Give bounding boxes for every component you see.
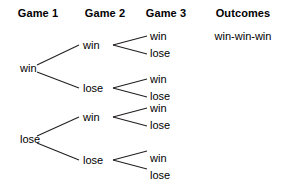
tree-node-game3: lose <box>150 169 170 181</box>
tree-node-game3: win <box>150 102 167 114</box>
tree-node-game2: win <box>83 111 100 123</box>
tree-branch-line <box>37 117 79 136</box>
tree-branch-line <box>113 160 147 169</box>
tree-branch-line <box>113 108 147 117</box>
column-header: Game 1 <box>18 7 58 19</box>
tree-node-game2: lose <box>83 82 103 94</box>
column-header: Game 3 <box>146 7 186 19</box>
tree-node-game2: lose <box>83 154 103 166</box>
column-header: Game 2 <box>85 7 125 19</box>
tree-edges <box>0 0 291 188</box>
column-header: Outcomes <box>216 7 271 19</box>
tree-branch-line <box>113 79 147 88</box>
tree-branch-line <box>113 36 147 45</box>
tree-branch-line <box>113 45 147 54</box>
tree-node-game3: lose <box>150 47 170 59</box>
tree-node-game3: win <box>150 30 167 42</box>
tree-node-game3: lose <box>150 119 170 131</box>
tree-branch-line <box>37 45 79 65</box>
probability-tree-figure: Game 1Game 2Game 3Outcomes winlosewinlos… <box>0 0 291 188</box>
tree-branch-line <box>113 151 147 160</box>
tree-branch-line <box>37 72 79 88</box>
tree-node-game3: lose <box>150 90 170 102</box>
tree-node-game3: win <box>150 73 167 85</box>
tree-node-game1: lose <box>20 133 40 145</box>
tree-branch-line <box>113 88 147 97</box>
tree-node-game2: win <box>83 39 100 51</box>
tree-node-game1: win <box>20 62 37 74</box>
tree-branch-line <box>113 117 147 126</box>
tree-branch-line <box>37 143 79 160</box>
outcome-label: win-win-win <box>215 30 272 42</box>
tree-node-game3: win <box>150 152 167 164</box>
